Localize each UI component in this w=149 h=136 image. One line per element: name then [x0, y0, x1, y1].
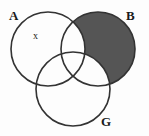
set-label-b: B [126, 9, 135, 22]
venn-diagram-figure: A B G x [0, 0, 149, 136]
element-marker-x: x [33, 31, 38, 41]
set-label-g: G [101, 115, 111, 128]
set-label-a: A [9, 9, 18, 22]
